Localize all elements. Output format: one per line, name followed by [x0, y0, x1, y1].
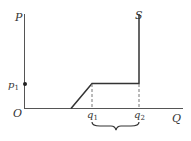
y-axis-label: P: [14, 11, 23, 24]
curve-label-s: S: [135, 9, 143, 22]
p1-label: p1: [8, 79, 19, 92]
supply-diagram: P S O Q p1 q1 q2: [0, 0, 191, 141]
x-axis-label: Q: [172, 112, 181, 125]
p1-point: [23, 82, 27, 86]
q1-label: q1: [87, 109, 98, 122]
supply-curve: [71, 14, 139, 109]
brace-q1-q2: [92, 122, 139, 130]
q2-label: q2: [134, 109, 145, 122]
origin-label: O: [13, 107, 22, 120]
